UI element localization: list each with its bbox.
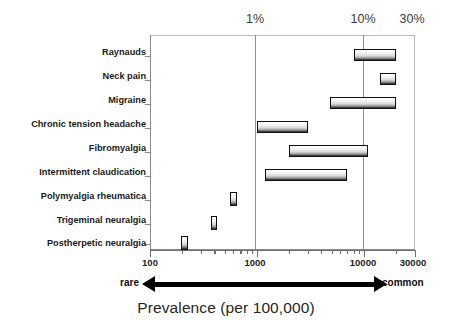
x-tick-major-10000 [364,250,365,257]
x-tick-minor-800 [247,250,248,254]
x-tick-minor-2000 [289,250,290,254]
x-tick-label-10000: 10000 [350,257,376,268]
gridline-1000 [255,35,256,250]
prevalence-chart-figure: 1% 10% 30% Raynauds Neck pain Migraine C… [0,0,452,331]
x-tick-minor-5000 [332,250,333,254]
arrow-shaft [154,282,376,287]
percent-marker-1: 1% [246,12,264,26]
x-tick-minor-400 [214,250,215,254]
x-tick-minor-8000 [354,250,355,254]
x-tick-minor-900 [252,250,253,254]
range-bar-fibromyalgia [289,145,368,157]
range-bar-raynauds [354,49,397,61]
y-axis-label-raynauds: Raynauds [0,47,146,57]
x-tick-minor-30000 [415,250,416,254]
x-tick-major-1000 [257,250,258,257]
plot-area [150,35,415,250]
range-bar-trigeminal-neuralgia [211,216,217,230]
x-tick-minor-700 [240,250,241,254]
y-axis-label-trigeminal-neuralgia: Trigeminal neuralgia [0,215,146,225]
percent-marker-10: 10% [350,12,375,26]
y-axis-label-postherpetic-neuralgia: Postherpetic neuralgia [0,238,146,248]
y-axis-label-migraine: Migraine [0,95,146,105]
rare-common-axis-annotation: rare common [0,274,452,294]
x-tick-minor-6000 [340,250,341,254]
x-tick-minor-3000 [308,250,309,254]
x-tick-major-100 [150,250,151,257]
chart-caption: Prevalence (per 100,000) [0,299,452,317]
x-tick-minor-7000 [347,250,348,254]
range-bar-migraine [330,97,396,109]
x-tick-minor-20000 [396,250,397,254]
rare-label: rare [120,277,139,288]
y-axis-label-fibromyalgia: Fibromyalgia [0,143,146,153]
x-axis-line [150,250,415,251]
x-tick-label-30000: 30000 [400,257,426,268]
y-axis-label-chronic-tension-headache: Chronic tension headache [0,119,146,129]
range-bar-chronic-tension-headache [257,121,308,133]
x-tick-minor-200 [182,250,183,254]
gridline-10000 [363,35,364,250]
range-bar-postherpetic-neuralgia [181,236,188,250]
y-axis-label-neck-pain: Neck pain [0,71,146,81]
percent-marker-30: 30% [399,12,424,26]
x-tick-minor-500 [225,250,226,254]
range-bar-neck-pain [380,73,397,85]
x-tick-minor-300 [201,250,202,254]
y-axis-label-polymyalgia-rheumatica: Polymyalgia rheumatica [0,191,146,201]
range-bar-intermittent-claudication [265,169,347,181]
common-label: common [382,277,424,288]
x-tick-label-1000: 1000 [244,257,265,268]
y-axis-label-intermittent-claudication: Intermittent claudication [0,167,146,177]
x-tick-minor-4000 [321,250,322,254]
x-tick-label-100: 100 [142,257,158,268]
range-bar-polymyalgia-rheumatica [230,192,237,206]
x-tick-minor-9000 [359,250,360,254]
x-tick-minor-600 [233,250,234,254]
